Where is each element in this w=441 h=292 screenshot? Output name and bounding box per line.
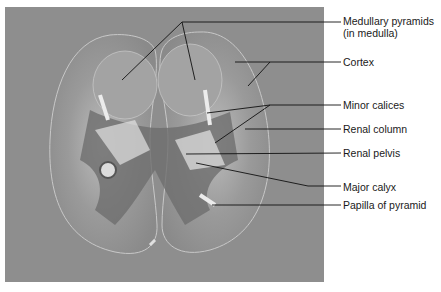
label-text: Medullary pyramids bbox=[343, 15, 434, 27]
leader-cortex bbox=[248, 62, 341, 86]
label-medullary-pyramids: Medullary pyramids (in medulla) bbox=[343, 15, 434, 39]
ureter-cross-section bbox=[100, 162, 116, 178]
label-major-calyx: Major calyx bbox=[343, 181, 396, 193]
label-minor-calices: Minor calices bbox=[343, 99, 404, 111]
label-papilla-of-pyramid: Papilla of pyramid bbox=[343, 199, 426, 211]
label-renal-pelvis: Renal pelvis bbox=[343, 147, 400, 159]
kidney-illustration bbox=[0, 0, 441, 292]
upper-right-pyramid bbox=[158, 44, 222, 116]
label-cortex: Cortex bbox=[343, 56, 374, 68]
label-subtext: (in medulla) bbox=[343, 27, 434, 39]
label-renal-column: Renal column bbox=[343, 123, 407, 135]
